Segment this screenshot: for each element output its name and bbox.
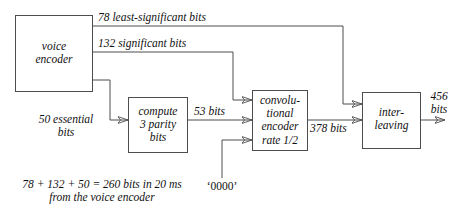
edge-label-significant: 132 significant bits — [98, 37, 186, 50]
interleaving-label-line-2: leaving — [362, 119, 421, 132]
edge-label-essential: 50 essential bits — [26, 113, 106, 138]
compute-parity-label-line-1: compute — [128, 105, 188, 118]
compute-parity-label-line-3: bits — [128, 131, 188, 144]
edge-label-essential-line-1: 50 essential — [26, 113, 106, 126]
voice-encoder-label-line-2: encoder — [15, 53, 93, 66]
compute-parity-label-line-2: 3 parity — [128, 118, 188, 131]
diagram-caption-line-2: from the voice encoder — [14, 191, 190, 204]
wire-significant — [93, 52, 234, 100]
convolutional-encoder-label-line-1: convolu- — [252, 94, 308, 107]
edge-label-final-out-line-2: bits — [421, 103, 457, 116]
edge-label-final-out: 456 bits — [421, 90, 457, 115]
edge-label-zeros: ‘0000’ — [200, 180, 244, 193]
voice-encoder-label-line-1: voice — [15, 40, 93, 53]
compute-parity-label: compute 3 parity bits — [128, 105, 188, 145]
edge-label-essential-line-2: bits — [26, 126, 106, 139]
convolutional-encoder-label: convolu- tional encoder rate 1/2 — [252, 94, 308, 147]
edge-label-parity-out: 53 bits — [194, 105, 225, 118]
block-diagram: voice encoder compute 3 parity bits conv… — [0, 0, 469, 219]
convolutional-encoder-label-line-4: rate 1/2 — [252, 134, 308, 147]
edge-label-conv-out: 378 bits — [310, 122, 347, 135]
interleaving-label: inter- leaving — [362, 106, 421, 132]
convolutional-encoder-label-line-3: encoder — [252, 120, 308, 133]
interleaving-label-line-1: inter- — [362, 106, 421, 119]
edge-label-least-significant: 78 least-significant bits — [98, 11, 206, 24]
voice-encoder-label: voice encoder — [15, 40, 93, 66]
diagram-caption-line-1: 78 + 132 + 50 = 260 bits in 20 ms — [14, 178, 190, 191]
convolutional-encoder-label-line-2: tional — [252, 107, 308, 120]
diagram-caption: 78 + 132 + 50 = 260 bits in 20 ms from t… — [14, 178, 190, 203]
edge-label-final-out-line-1: 456 — [421, 90, 457, 103]
